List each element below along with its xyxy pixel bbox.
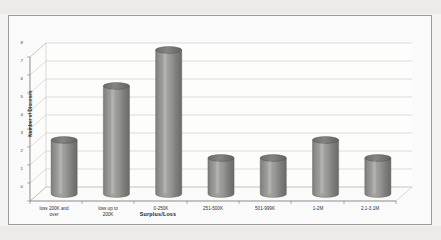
x-tick-label: 2.1-3.1M (342, 206, 398, 212)
y-tick-label: 1 (13, 166, 23, 171)
y-tick-label: 5 (13, 94, 23, 99)
bar-chart: 8 7 6 5 4 3 2 1 0 loss 200K and over los… (8, 15, 432, 225)
y-tick-label: 8 (13, 40, 23, 45)
bar-cylinder (208, 155, 234, 198)
y-tick-label: 3 (13, 130, 23, 135)
bar-cylinder (156, 47, 182, 198)
y-tick-label: 6 (13, 76, 23, 81)
bar-cylinder (103, 83, 129, 198)
bar-cylinder (51, 137, 77, 198)
y-tick-label: 0 (13, 184, 23, 189)
y-axis-title: Number of Dioceses (28, 74, 33, 154)
y-tick-label: 2 (13, 148, 23, 153)
scan-noise-bottom (0, 226, 441, 240)
y-tick-label: 7 (13, 58, 23, 63)
bar-cylinder (313, 137, 339, 198)
x-axis-title: Surplus/Loss (8, 211, 308, 217)
x-tick-marks (30, 201, 396, 204)
bar-cylinder (260, 155, 286, 198)
scan-noise-top (0, 0, 441, 14)
bar-cylinder (365, 155, 391, 198)
y-tick-label: 4 (13, 112, 23, 117)
chart-plot-svg (8, 15, 432, 225)
